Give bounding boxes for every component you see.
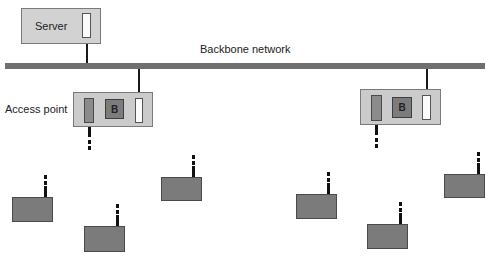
- wireless-station-3: [161, 177, 202, 201]
- ap-1-antenna-icon: [88, 127, 91, 151]
- wireless-station-6: [444, 174, 485, 198]
- server-port-slot: [82, 13, 91, 38]
- wireless-station-4: [296, 194, 337, 219]
- station-2-antenna-icon: [116, 204, 119, 226]
- server-uplink: [86, 44, 88, 64]
- ap-1-uplink: [138, 69, 140, 92]
- station-1-antenna-icon: [44, 175, 47, 197]
- ap-2-radio-slot: [371, 95, 382, 121]
- ap-2-uplink: [426, 69, 428, 89]
- ap-1-radio-slot: [84, 98, 94, 123]
- ap-1-bridge-box: B: [105, 99, 124, 119]
- access-point-1: B: [73, 92, 153, 127]
- station-3-antenna-icon: [192, 155, 195, 177]
- ap-2-bridge-box: B: [392, 97, 412, 118]
- station-4-antenna-icon: [327, 172, 330, 194]
- ap-2-port-slot: [422, 95, 431, 120]
- ap-1-bridge-label: B: [111, 104, 118, 115]
- ap-2-bridge-label: B: [398, 102, 405, 113]
- station-6-antenna-icon: [477, 152, 480, 174]
- backbone-label: Backbone network: [200, 43, 291, 55]
- wireless-station-5: [367, 224, 408, 249]
- station-5-antenna-icon: [399, 202, 402, 224]
- server-box: Server: [21, 8, 101, 44]
- ap-2-antenna-icon: [375, 125, 378, 149]
- backbone-network-bar: [5, 63, 485, 69]
- ap-1-port-slot: [135, 98, 143, 123]
- wireless-station-2: [84, 226, 125, 252]
- server-label: Server: [35, 20, 67, 32]
- access-point-2: B: [360, 89, 441, 125]
- access-point-label: Access point: [5, 103, 67, 115]
- wireless-station-1: [12, 197, 53, 222]
